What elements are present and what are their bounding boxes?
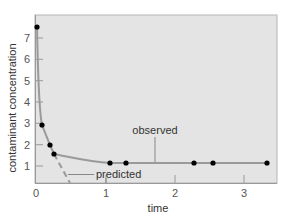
data-point bbox=[34, 24, 39, 29]
svg-text:7: 7 bbox=[24, 32, 30, 44]
x-tick-labels: 0 1 2 3 bbox=[33, 187, 247, 199]
svg-text:3: 3 bbox=[241, 187, 247, 199]
data-point bbox=[210, 160, 215, 165]
svg-text:3: 3 bbox=[24, 117, 30, 129]
data-point bbox=[51, 151, 56, 156]
y-tick-labels: 1 2 3 4 5 6 7 bbox=[24, 32, 30, 172]
data-point bbox=[264, 160, 269, 165]
svg-text:1: 1 bbox=[103, 187, 109, 199]
svg-text:4: 4 bbox=[24, 96, 30, 108]
svg-text:6: 6 bbox=[24, 53, 30, 65]
svg-text:2: 2 bbox=[172, 187, 178, 199]
predicted-annotation: predicted bbox=[96, 168, 141, 180]
data-point bbox=[123, 160, 128, 165]
data-point bbox=[39, 122, 44, 127]
svg-text:5: 5 bbox=[24, 75, 30, 87]
x-axis-label: time bbox=[148, 202, 169, 214]
chart: 1 2 3 4 5 6 7 0 1 2 3 time contaminant c… bbox=[0, 0, 289, 221]
data-point bbox=[107, 160, 112, 165]
y-axis-label: contaminant concentration bbox=[6, 43, 18, 172]
svg-text:0: 0 bbox=[33, 187, 39, 199]
data-point bbox=[47, 142, 52, 147]
svg-text:1: 1 bbox=[24, 160, 30, 172]
observed-annotation: observed bbox=[132, 124, 177, 136]
svg-text:2: 2 bbox=[24, 139, 30, 151]
data-point bbox=[191, 160, 196, 165]
